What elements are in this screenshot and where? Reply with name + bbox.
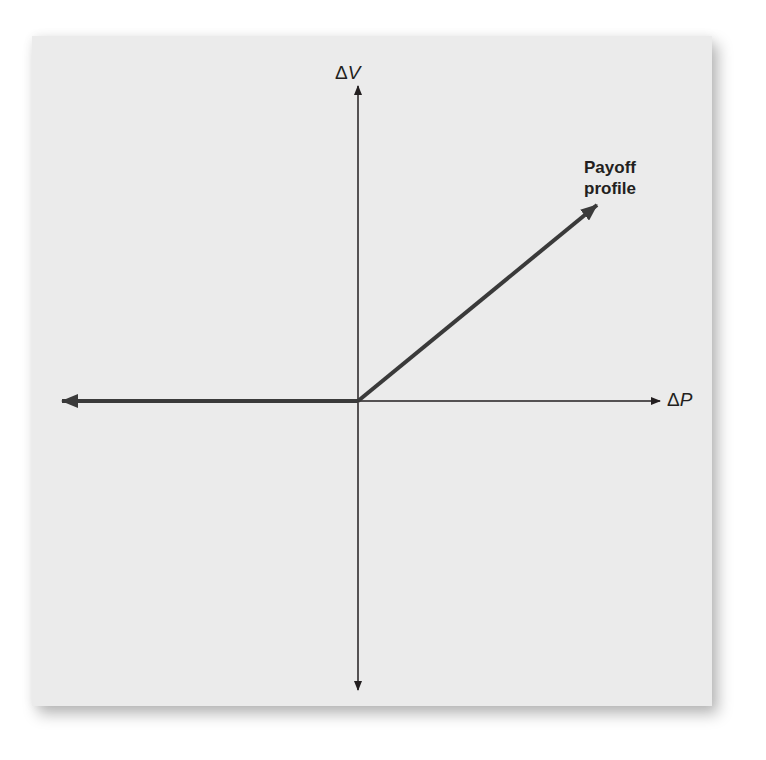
payoff-line-right [358, 205, 597, 401]
y-axis-label: ΔV [335, 62, 360, 84]
payoff-profile-label: Payoff profile [584, 157, 636, 199]
payoff-diagram [0, 0, 766, 760]
x-axis-label: ΔP [667, 389, 692, 411]
